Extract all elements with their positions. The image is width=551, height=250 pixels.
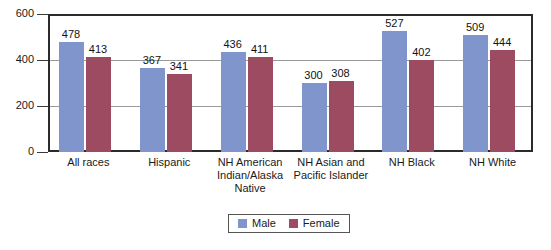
bar-female[interactable] bbox=[409, 60, 434, 152]
male-color-swatch bbox=[238, 219, 247, 228]
bar-value-label: 341 bbox=[164, 61, 194, 72]
x-axis-labels: All racesHispanicNH AmericanIndian/Alask… bbox=[48, 156, 533, 204]
bar-group: 527402 bbox=[371, 14, 452, 152]
bar-value-label: 308 bbox=[326, 68, 356, 79]
bar-group: 478413 bbox=[48, 14, 129, 152]
bar-value-label: 413 bbox=[83, 44, 113, 55]
y-tick-mark-200 bbox=[37, 106, 48, 107]
x-axis-category-label: NH White bbox=[452, 156, 533, 169]
bar-value-label: 509 bbox=[460, 22, 490, 33]
legend-label-male: Male bbox=[252, 218, 276, 229]
bar-value-label: 436 bbox=[218, 39, 248, 50]
bar-male[interactable] bbox=[382, 31, 407, 152]
y-tick-label-0: 0 bbox=[28, 146, 34, 157]
bar-female[interactable] bbox=[167, 74, 192, 152]
y-tick-mark-0 bbox=[37, 152, 48, 153]
bar-female[interactable] bbox=[86, 57, 111, 152]
x-axis-category-label: Hispanic bbox=[129, 156, 210, 169]
bar-male[interactable] bbox=[302, 83, 327, 152]
legend-item-female[interactable]: Female bbox=[289, 218, 340, 229]
y-tick-label-400: 400 bbox=[16, 54, 34, 65]
bar-female[interactable] bbox=[329, 81, 354, 152]
bar-female[interactable] bbox=[490, 50, 515, 152]
bar-group: 367341 bbox=[129, 14, 210, 152]
bar-value-label: 527 bbox=[379, 18, 409, 29]
bar-value-label: 300 bbox=[299, 70, 329, 81]
legend-label-female: Female bbox=[303, 218, 340, 229]
bar-value-label: 411 bbox=[245, 44, 275, 55]
x-axis-category-label: NH Asian andPacific Islander bbox=[291, 156, 372, 182]
bar-group: 436411 bbox=[210, 14, 291, 152]
legend-item-male[interactable]: Male bbox=[238, 218, 276, 229]
bars-layer: 478413367341436411300308527402509444 bbox=[48, 14, 533, 152]
x-axis-category-label: All races bbox=[48, 156, 129, 169]
female-color-swatch bbox=[289, 219, 298, 228]
bar-male[interactable] bbox=[221, 52, 246, 152]
bar-group: 509444 bbox=[452, 14, 533, 152]
x-axis-category-label: NH AmericanIndian/AlaskaNative bbox=[210, 156, 291, 195]
bar-value-label: 444 bbox=[487, 37, 517, 48]
y-tick-mark-400 bbox=[37, 60, 48, 61]
bar-male[interactable] bbox=[140, 68, 165, 152]
bar-female[interactable] bbox=[248, 57, 273, 152]
y-tick-mark-600 bbox=[37, 14, 48, 15]
grouped-bar-chart: 0200400600 47841336734143641130030852740… bbox=[0, 0, 551, 250]
y-tick-label-200: 200 bbox=[16, 100, 34, 111]
bar-male[interactable] bbox=[463, 35, 488, 152]
y-tick-label-600: 600 bbox=[16, 8, 34, 19]
bar-male[interactable] bbox=[59, 42, 84, 152]
chart-legend: Male Female bbox=[228, 214, 350, 233]
y-axis: 0200400600 bbox=[0, 0, 48, 250]
bar-value-label: 478 bbox=[56, 29, 86, 40]
x-axis-category-label: NH Black bbox=[371, 156, 452, 169]
bar-value-label: 367 bbox=[137, 55, 167, 66]
bar-value-label: 402 bbox=[406, 47, 436, 58]
bar-group: 300308 bbox=[291, 14, 372, 152]
